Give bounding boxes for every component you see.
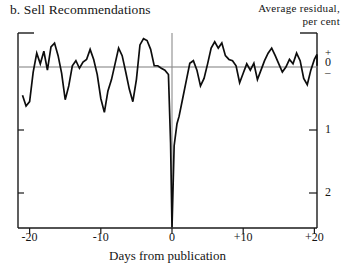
- y-axis-caption-line-2: per cent: [220, 15, 340, 28]
- y-axis-caption: Average residual, per cent: [220, 2, 340, 27]
- x-tick-label: -10: [81, 230, 121, 245]
- y-tick-minus-sign: –: [325, 68, 345, 76]
- x-tick-label: +10: [223, 230, 263, 245]
- figure-panel: b. Sell Recommendations Average residual…: [0, 0, 346, 272]
- x-tick-label: -20: [10, 230, 50, 245]
- axis-frame: [18, 33, 317, 228]
- y-tick-label: 1: [325, 122, 346, 137]
- page-title: b. Sell Recommendations: [10, 2, 151, 18]
- x-axis-title: Days from publication: [0, 248, 335, 264]
- x-tick-label: +20: [294, 230, 334, 245]
- zero-tick-cluster: + 0 –: [325, 48, 345, 76]
- reference-lines: [18, 33, 317, 228]
- y-axis-ticks: [18, 130, 317, 193]
- y-axis-caption-line-1: Average residual,: [220, 2, 340, 15]
- x-tick-label: 0: [152, 230, 192, 245]
- y-tick-label: 2: [325, 185, 346, 200]
